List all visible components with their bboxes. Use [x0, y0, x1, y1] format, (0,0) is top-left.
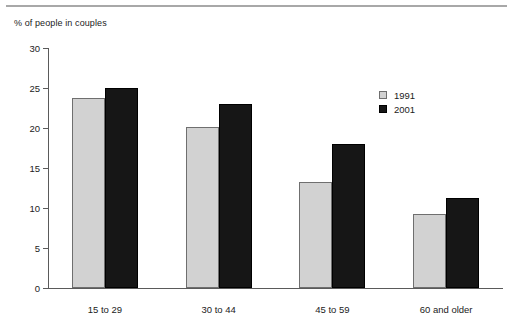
- x-axis-category-label: 60 and older: [420, 304, 473, 315]
- legend-swatch-2001-icon: [379, 105, 387, 113]
- y-axis-tick-mark: [43, 288, 48, 289]
- bar-2001-30-to-44: [219, 104, 252, 288]
- bar-1991-15-to-29: [72, 98, 105, 288]
- y-axis-title: % of people in couples: [14, 18, 107, 28]
- bar-1991-30-to-44: [186, 127, 219, 288]
- bar-1991-45-to-59: [299, 182, 332, 288]
- legend-item: 1991: [379, 88, 415, 102]
- y-axis-tick-label: 10: [29, 203, 40, 214]
- legend-swatch-1991-icon: [379, 91, 387, 99]
- y-axis-tick-label: 20: [29, 123, 40, 134]
- bar-2001-15-to-29: [105, 88, 138, 288]
- x-axis-category-label: 15 to 29: [88, 304, 122, 315]
- y-axis-line: [48, 48, 49, 288]
- y-axis-tick-label: 25: [29, 83, 40, 94]
- bar-2001-45-to-59: [332, 144, 365, 288]
- y-axis-tick-mark: [43, 208, 48, 209]
- y-axis-tick-label: 15: [29, 163, 40, 174]
- legend-label-2001: 2001: [394, 104, 415, 115]
- y-axis-tick-label: 0: [35, 283, 40, 294]
- y-axis-tick-label: 30: [29, 43, 40, 54]
- y-axis-tick-mark: [43, 48, 48, 49]
- chart-legend: 1991 2001: [379, 88, 415, 116]
- bar-2001-60-and-older: [446, 198, 479, 288]
- x-axis-line: [48, 288, 503, 289]
- y-axis-tick-label: 5: [35, 243, 40, 254]
- y-axis-tick-mark: [43, 168, 48, 169]
- x-axis-category-label: 30 to 44: [201, 304, 235, 315]
- legend-item: 2001: [379, 102, 415, 116]
- bar-1991-60-and-older: [413, 214, 446, 288]
- y-axis-tick-mark: [43, 88, 48, 89]
- header-divider: [6, 5, 507, 7]
- y-axis-tick-mark: [43, 128, 48, 129]
- x-axis-category-label: 45 to 59: [315, 304, 349, 315]
- chart-plot-area: 051015202530 15 to 2930 to 4445 to 5960 …: [48, 48, 503, 288]
- y-axis-tick-mark: [43, 248, 48, 249]
- legend-label-1991: 1991: [394, 90, 415, 101]
